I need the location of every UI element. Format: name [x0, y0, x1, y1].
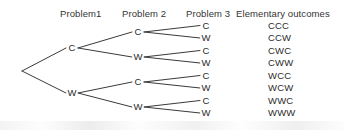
stage3-node: W [201, 83, 212, 93]
tree-branch [144, 107, 200, 113]
tree-branch [78, 82, 132, 93]
elementary-outcome: CWC [268, 46, 291, 56]
stage3-node: W [201, 58, 212, 68]
tree-branch [22, 48, 66, 71]
elementary-outcome: CWW [268, 58, 293, 68]
stage2-node: C [134, 77, 143, 87]
stage3-node: C [202, 71, 211, 81]
column-header: Problem 2 [122, 8, 166, 19]
tree-branch [22, 71, 66, 93]
tree-branch [78, 32, 132, 48]
elementary-outcome: WWW [268, 108, 296, 118]
stage1-node: W [67, 88, 78, 98]
stage3-node: W [201, 33, 212, 43]
column-header: Elementary outcomes [236, 8, 330, 19]
tree-branch [144, 82, 200, 88]
tree-branch [78, 93, 132, 107]
tree-branch [144, 51, 200, 58]
column-header: Problem 3 [186, 8, 230, 19]
stage3-node: W [201, 108, 212, 118]
elementary-outcome: CCC [268, 21, 289, 31]
elementary-outcome: WCC [268, 71, 291, 81]
tree-branch [78, 48, 132, 57]
stage3-node: C [202, 46, 211, 56]
stage2-node: C [134, 27, 143, 37]
tree-branch [144, 101, 200, 108]
column-header: Problem1 [60, 8, 101, 19]
stage1-node: C [68, 43, 77, 53]
elementary-outcome: WCW [268, 83, 293, 93]
elementary-outcome: WWC [268, 96, 293, 106]
stage2-node: W [133, 52, 144, 62]
tree-branch [144, 76, 200, 83]
tree-branch [144, 57, 200, 63]
stage3-node: C [202, 21, 211, 31]
tree-branch [144, 26, 200, 33]
tree-branch [144, 32, 200, 38]
stage2-node: W [133, 102, 144, 112]
probability-tree-diagram: Problem1Problem 2Problem 3Elementary out… [0, 0, 344, 130]
elementary-outcome: CCW [268, 33, 291, 43]
stage3-node: C [202, 96, 211, 106]
